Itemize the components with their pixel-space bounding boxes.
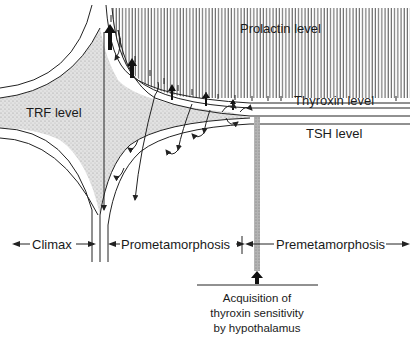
prolactin-label: Prolactin level — [240, 21, 321, 36]
phase-row: Climax Prometamorphosis Premetamorphosis — [12, 236, 410, 254]
arrow-up-icon — [251, 271, 263, 284]
annotation: Acquisition of thyroxin sensitivity by h… — [197, 271, 318, 334]
arrow-up-icon — [230, 99, 236, 110]
phase-premetamorphosis: Premetamorphosis — [276, 237, 386, 252]
tsh-label: TSH level — [306, 126, 362, 141]
hypothalamus-sensitivity-bar — [254, 117, 260, 271]
phase-prometamorphosis: Prometamorphosis — [121, 237, 231, 252]
annotation-line-2: thyroxin sensitivity — [210, 307, 304, 319]
thyroid-hormone-regulation-diagram: Prolactin level Thyroxin level TSH level… — [0, 0, 420, 344]
phase-climax: Climax — [32, 237, 72, 252]
annotation-line-1: Acquisition of — [223, 292, 292, 304]
annotation-line-3: by hypothalamus — [214, 322, 301, 334]
trf-label: TRF level — [26, 105, 82, 120]
thyroxin-label: Thyroxin level — [294, 93, 374, 108]
